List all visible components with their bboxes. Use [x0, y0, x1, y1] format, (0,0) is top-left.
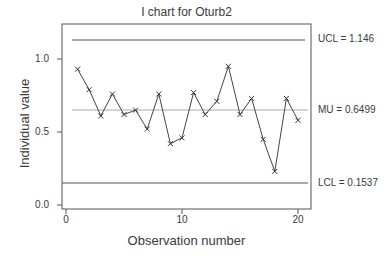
y-tick-label: 0.5 [35, 126, 49, 137]
y-tick-label: 1.0 [35, 53, 49, 64]
x-tick-label: 20 [283, 214, 313, 225]
mu-label: MU = 0.6499 [318, 104, 376, 115]
x-tick-label: 0 [51, 214, 81, 225]
lcl-label: LCL = 0.1537 [318, 177, 378, 188]
ucl-label: UCL = 1.146 [318, 33, 374, 44]
x-axis-label: Observation number [62, 233, 311, 248]
plot-frame [62, 24, 311, 209]
y-axis-label: Individual value [17, 64, 32, 184]
y-axis-ticks [57, 59, 62, 205]
x-tick-label: 10 [167, 214, 197, 225]
y-tick-label: 0.0 [35, 199, 49, 210]
data-series-line [78, 66, 298, 171]
chart-title: I chart for Oturb2 [62, 5, 311, 19]
data-markers [75, 64, 300, 174]
